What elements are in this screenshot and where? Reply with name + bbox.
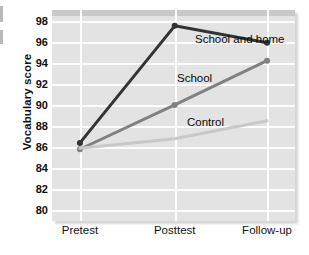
x-tick-label: Pretest bbox=[62, 224, 98, 236]
y-tick-label: 86 bbox=[16, 141, 48, 153]
page-edge-mark bbox=[0, 30, 3, 44]
data-point-marker bbox=[77, 140, 83, 146]
y-tick-label: 88 bbox=[16, 120, 48, 132]
x-tick-label: Posttest bbox=[154, 224, 196, 236]
x-axis-tick-labels: PretestPosttestFollow-up bbox=[52, 224, 295, 244]
x-tick-label: Follow-up bbox=[242, 224, 292, 236]
y-tick-label: 98 bbox=[16, 15, 48, 27]
data-point-marker bbox=[264, 58, 270, 64]
page-edge-mark bbox=[0, 6, 3, 22]
data-point-marker bbox=[172, 23, 178, 29]
y-tick-label: 84 bbox=[16, 162, 48, 174]
y-tick-label: 80 bbox=[16, 204, 48, 216]
y-tick-label: 82 bbox=[16, 183, 48, 195]
data-point-marker bbox=[172, 102, 178, 108]
plot-area: School and homeSchoolControl bbox=[52, 10, 295, 221]
series-label-school: School bbox=[177, 72, 212, 84]
figure: Vocabulary score 98969492908886848280 Sc… bbox=[0, 0, 309, 255]
y-axis-tick-labels: 98969492908886848280 bbox=[16, 0, 48, 255]
series-label-control: Control bbox=[187, 116, 224, 128]
y-tick-label: 92 bbox=[16, 78, 48, 90]
y-tick-label: 94 bbox=[16, 57, 48, 69]
series-label-school-and-home: School and home bbox=[195, 33, 285, 45]
y-tick-label: 90 bbox=[16, 99, 48, 111]
y-tick-label: 96 bbox=[16, 36, 48, 48]
